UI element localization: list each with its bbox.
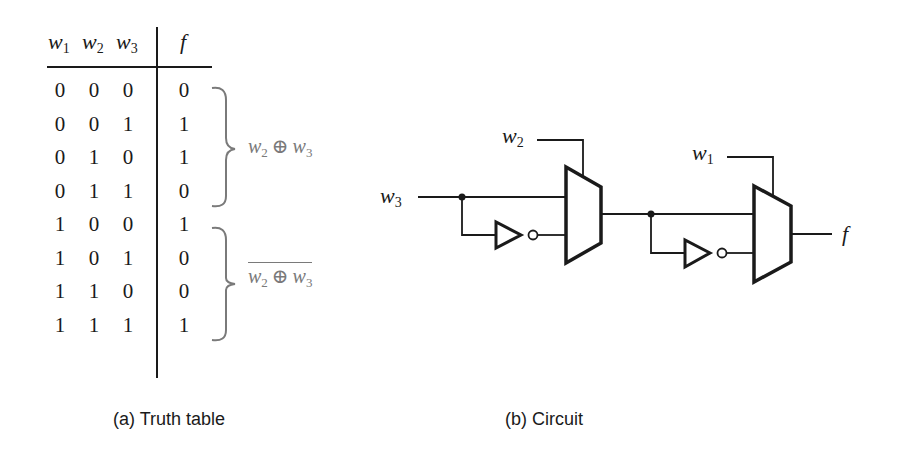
label-w3-sub: 3 [395,195,402,210]
inverter-2-icon [685,240,710,267]
label-w2: w2 [502,124,524,155]
wire-mux1-branch [651,214,684,253]
mux-1-icon [566,167,601,263]
mux-2-icon [754,186,791,282]
wire-w2-select [537,140,583,176]
caption-truth-table: (a) Truth table [113,409,225,430]
wire-w1-select [727,157,773,195]
caption-circuit: (b) Circuit [505,409,583,430]
label-w3: w3 [380,184,402,215]
label-w1-sub: 1 [707,152,714,167]
inverter-1-icon [496,222,521,248]
label-f: f [842,222,848,246]
label-w2-base: w [502,123,517,148]
label-w1-base: w [692,140,707,165]
inverter-1-bubble-icon [529,231,538,240]
diagram-graphics [0,0,902,456]
wire-w3-branch [462,197,495,235]
label-w1: w1 [692,141,714,172]
label-w3-base: w [380,183,395,208]
label-w2-sub: 2 [517,135,524,150]
brace-top-icon [212,88,235,207]
brace-bottom-icon [212,228,235,341]
inverter-2-bubble-icon [718,249,727,258]
